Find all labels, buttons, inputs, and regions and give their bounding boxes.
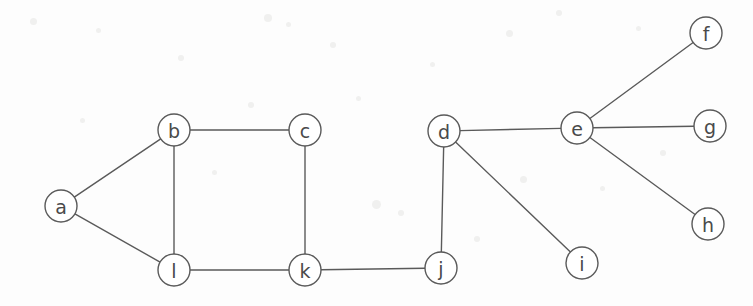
- node-label-g: g: [704, 116, 716, 138]
- graph-node-k[interactable]: k: [289, 254, 321, 286]
- graph-node-c[interactable]: c: [289, 114, 321, 146]
- node-label-b: b: [168, 120, 180, 142]
- graph-edge-e-h: [590, 137, 695, 214]
- edge-layer: [74, 42, 695, 270]
- graph-edge-e-g: [593, 126, 694, 128]
- graph-node-g[interactable]: g: [694, 110, 726, 142]
- graph-node-d[interactable]: d: [428, 115, 460, 147]
- graph-edge-d-e: [460, 128, 561, 130]
- node-label-i: i: [579, 253, 584, 275]
- graph-node-b[interactable]: b: [158, 114, 190, 146]
- graph-svg-surface: abcdefghijkl: [0, 0, 753, 306]
- graph-node-f[interactable]: f: [690, 17, 722, 49]
- node-label-d: d: [438, 121, 450, 143]
- node-label-a: a: [55, 196, 67, 218]
- graph-edge-a-b: [74, 139, 160, 197]
- node-label-l: l: [171, 260, 176, 282]
- node-label-j: j: [437, 258, 443, 280]
- graph-node-l[interactable]: l: [158, 254, 190, 286]
- graph-node-i[interactable]: i: [566, 247, 598, 279]
- graph-node-a[interactable]: a: [45, 190, 77, 222]
- node-label-h: h: [702, 214, 714, 236]
- node-label-k: k: [299, 260, 310, 282]
- graph-diagram: abcdefghijkl: [0, 0, 753, 306]
- graph-edge-a-l: [75, 214, 160, 262]
- graph-edge-j-d: [441, 147, 443, 252]
- graph-edge-e-f: [590, 42, 693, 118]
- graph-edge-d-i: [456, 142, 571, 252]
- graph-edge-k-j: [321, 268, 425, 270]
- node-label-e: e: [571, 118, 583, 140]
- graph-node-e[interactable]: e: [561, 112, 593, 144]
- node-label-c: c: [300, 120, 310, 142]
- node-layer: abcdefghijkl: [45, 17, 726, 286]
- graph-node-h[interactable]: h: [692, 208, 724, 240]
- graph-node-j[interactable]: j: [425, 252, 457, 284]
